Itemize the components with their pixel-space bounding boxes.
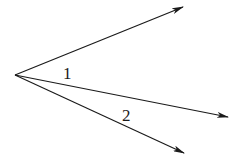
- ray-bottom: [15, 75, 184, 153]
- angle-label-1: 1: [63, 64, 72, 83]
- ray-top: [15, 7, 183, 75]
- angle-label-2: 2: [122, 106, 131, 125]
- angle-diagram: 1 2: [0, 0, 236, 167]
